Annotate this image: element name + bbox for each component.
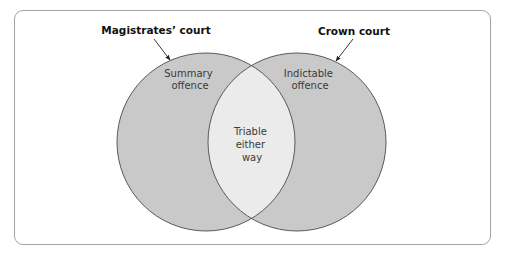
indictable-offence-line-2: offence bbox=[291, 80, 328, 91]
magistrates-court-title: Magistrates’ court bbox=[101, 24, 210, 36]
indictable-offence-label: Indictable offence bbox=[284, 68, 336, 91]
crown-pointer-arrow-icon bbox=[336, 39, 353, 61]
triable-line-1: Triable bbox=[233, 126, 267, 137]
summary-offence-line-2: offence bbox=[171, 80, 208, 91]
summary-offence-line-1: Summary bbox=[164, 68, 212, 79]
crown-court-title: Crown court bbox=[318, 25, 390, 37]
venn-diagram: Magistrates’ court Crown court Summary o… bbox=[0, 0, 507, 255]
magistrates-pointer-arrow-icon bbox=[154, 39, 170, 60]
summary-offence-label: Summary offence bbox=[164, 68, 216, 91]
triable-line-3: way bbox=[242, 152, 262, 163]
indictable-offence-line-1: Indictable bbox=[284, 68, 333, 79]
triable-line-2: either bbox=[236, 139, 266, 150]
